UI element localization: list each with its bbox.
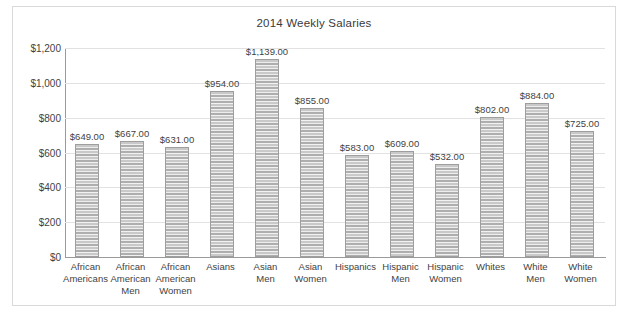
chart-title: 2014 Weekly Salaries bbox=[13, 17, 615, 29]
y-tick-label: $800 bbox=[17, 112, 61, 123]
x-tick-label-line: Men bbox=[526, 273, 544, 284]
bar-group[interactable]: $954.00 bbox=[200, 48, 245, 257]
bar[interactable] bbox=[255, 59, 279, 257]
x-tick-label-line: Men bbox=[256, 273, 274, 284]
bar[interactable] bbox=[570, 131, 594, 257]
x-tick-label: WhiteMen bbox=[512, 261, 560, 285]
bar-group[interactable]: $884.00 bbox=[515, 48, 560, 257]
x-tick-label-line: Women bbox=[564, 273, 597, 284]
bar[interactable] bbox=[75, 144, 99, 257]
x-tick-label: Asians bbox=[197, 261, 245, 273]
x-tick-label-line: Americans bbox=[63, 273, 108, 284]
bar[interactable] bbox=[345, 155, 369, 257]
x-tick-label-line: Hispanic bbox=[382, 261, 418, 272]
bar[interactable] bbox=[435, 164, 459, 257]
y-tick-label: $1,000 bbox=[17, 77, 61, 88]
bar-value-label: $725.00 bbox=[550, 118, 614, 129]
x-tick-label-line: Women bbox=[159, 285, 192, 296]
x-tick-label-line: Asian bbox=[299, 261, 323, 272]
bar[interactable] bbox=[525, 103, 549, 257]
x-axis-line bbox=[65, 257, 606, 258]
x-tick-label-line: American bbox=[110, 273, 150, 284]
bar[interactable] bbox=[390, 151, 414, 257]
x-tick-label: AsianWomen bbox=[287, 261, 335, 285]
x-tick-label: AfricanAmericanMen bbox=[107, 261, 155, 297]
bar-group[interactable]: $649.00 bbox=[65, 48, 110, 257]
bar-group[interactable]: $725.00 bbox=[560, 48, 605, 257]
bar-group[interactable]: $583.00 bbox=[335, 48, 380, 257]
x-tick-label: HispanicMen bbox=[377, 261, 425, 285]
y-axis-labels: $0$200$400$600$800$1,000$1,200 bbox=[13, 48, 61, 257]
x-tick-label-line: Men bbox=[391, 273, 409, 284]
x-tick-label-line: African bbox=[116, 261, 146, 272]
x-tick-label-line: Whites bbox=[476, 261, 505, 272]
x-tick-label-line: Hispanic bbox=[427, 261, 463, 272]
x-tick-label-line: Asians bbox=[206, 261, 235, 272]
y-tick-label: $400 bbox=[17, 182, 61, 193]
bar[interactable] bbox=[210, 91, 234, 257]
x-tick-label-line: Women bbox=[294, 273, 327, 284]
x-tick-label-line: White bbox=[568, 261, 592, 272]
bar[interactable] bbox=[120, 141, 144, 257]
x-tick-label-line: American bbox=[155, 273, 195, 284]
x-axis-labels: AfricanAmericansAfricanAmericanMenAfrica… bbox=[65, 261, 605, 305]
x-tick-label: AsianMen bbox=[242, 261, 290, 285]
x-tick-label-line: Men bbox=[121, 285, 139, 296]
x-tick-label-line: African bbox=[161, 261, 191, 272]
bar-group[interactable]: $532.00 bbox=[425, 48, 470, 257]
chart-container: 2014 Weekly Salaries $0$200$400$600$800$… bbox=[12, 6, 616, 306]
x-tick-label-line: Women bbox=[429, 273, 462, 284]
plot-area: $649.00$667.00$631.00$954.00$1,139.00$85… bbox=[65, 48, 605, 257]
bar[interactable] bbox=[480, 117, 504, 257]
bar-group[interactable]: $1,139.00 bbox=[245, 48, 290, 257]
bar-group[interactable]: $802.00 bbox=[470, 48, 515, 257]
y-tick-label: $200 bbox=[17, 217, 61, 228]
x-tick-label: AfricanAmericans bbox=[62, 261, 110, 285]
bar[interactable] bbox=[300, 108, 324, 257]
x-tick-label: Whites bbox=[467, 261, 515, 273]
x-tick-label: WhiteWomen bbox=[557, 261, 605, 285]
y-tick-label: $0 bbox=[17, 252, 61, 263]
bar-group[interactable]: $667.00 bbox=[110, 48, 155, 257]
x-tick-label: AfricanAmericanWomen bbox=[152, 261, 200, 297]
y-tick-label: $1,200 bbox=[17, 43, 61, 54]
x-tick-label-line: African bbox=[71, 261, 101, 272]
x-tick-label: Hispanics bbox=[332, 261, 380, 273]
x-tick-label-line: Hispanics bbox=[335, 261, 376, 272]
bar[interactable] bbox=[165, 147, 189, 257]
x-tick-label-line: White bbox=[523, 261, 547, 272]
x-tick-label-line: Asian bbox=[254, 261, 278, 272]
x-tick-label: HispanicWomen bbox=[422, 261, 470, 285]
y-tick-label: $600 bbox=[17, 147, 61, 158]
